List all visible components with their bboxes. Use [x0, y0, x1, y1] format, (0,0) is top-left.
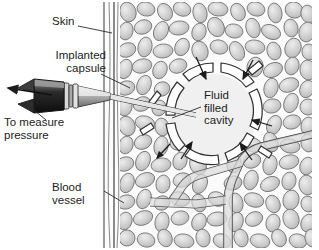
label-fluid-filled-cavity: Fluidfilledcavity — [204, 89, 233, 127]
label-blood-vessel: Bloodvessel — [52, 181, 85, 206]
skin-layer — [100, 2, 120, 248]
label-to-measure-line1: To measure — [4, 116, 64, 128]
label-implanted-capsule: Implantedcapsule — [24, 49, 106, 74]
label-blood-vessel-line1: Blood — [52, 181, 81, 193]
label-blood-vessel-line2: vessel — [52, 194, 85, 206]
label-to-measure-pressure: To measurepressure — [4, 116, 64, 141]
label-implanted-capsule-line1: Implanted — [55, 49, 106, 61]
label-to-measure-line2: pressure — [4, 129, 49, 141]
label-fluid-cavity-line2: filled — [204, 102, 228, 114]
label-implanted-capsule-line2: capsule — [66, 62, 106, 74]
label-fluid-cavity-line3: cavity — [204, 114, 233, 126]
label-skin: Skin — [52, 15, 74, 28]
label-fluid-cavity-line1: Fluid — [204, 89, 229, 101]
